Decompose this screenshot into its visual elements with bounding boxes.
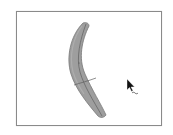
vertex-marker	[78, 62, 79, 63]
arrow-pointer-icon	[127, 79, 135, 92]
mouse-cursor	[127, 79, 138, 94]
tilde-icon	[132, 92, 138, 94]
mesh-body	[69, 23, 106, 118]
curved-mesh-model[interactable]	[69, 23, 106, 118]
